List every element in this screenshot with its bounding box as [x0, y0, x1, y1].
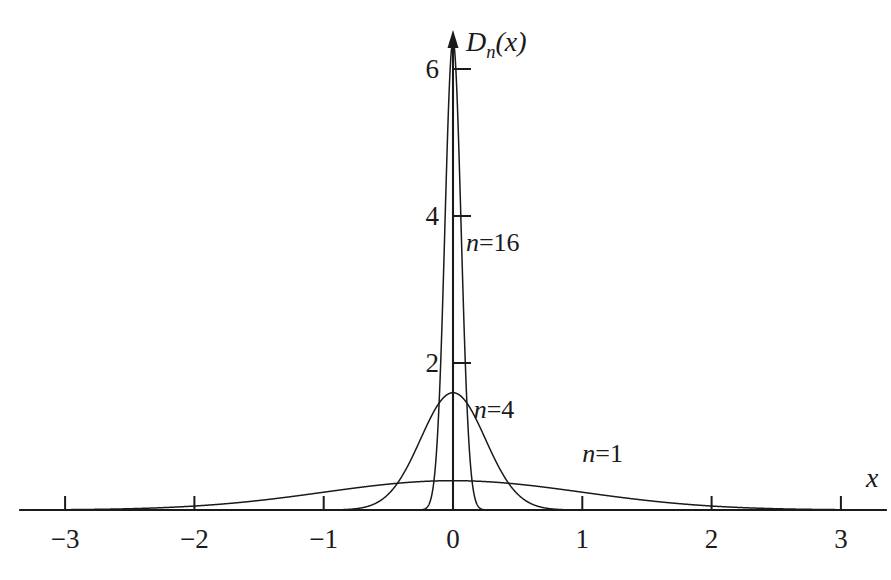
y-axis-title-symbol: D [466, 26, 486, 57]
x-tick-label-0: 0 [446, 524, 460, 555]
axes-group [38, 40, 862, 510]
x-tick-label--2: −2 [180, 524, 209, 555]
curve-label-variable: n [474, 395, 487, 424]
y-axis-title-argument: (x) [495, 26, 526, 57]
curve-label-value: =4 [487, 395, 515, 424]
x-tick-label--1: −1 [309, 524, 338, 555]
curve-label-n-1: n=1 [582, 439, 623, 469]
x-axis-title: x [866, 462, 878, 494]
figure-canvas: x Dn(x) −3−2−10123 246 n=1n=4n=16 [0, 0, 891, 580]
y-tick-label-2: 2 [405, 348, 439, 379]
x-tick-label-1: 1 [576, 524, 590, 555]
x-tick-label--3: −3 [51, 524, 80, 555]
y-axis-title: Dn(x) [466, 26, 527, 63]
y-tick-label-4: 4 [405, 201, 439, 232]
y-axis-arrowhead [448, 30, 459, 48]
y-tick-label-6: 6 [405, 54, 439, 85]
curve-label-variable: n [582, 439, 595, 468]
curve-label-n-4: n=4 [474, 395, 515, 425]
x-tick-label-3: 3 [834, 524, 848, 555]
curve-label-value: =1 [595, 439, 623, 468]
chart-plot-area [0, 0, 891, 580]
y-tick-marks [454, 69, 471, 363]
curve-label-n-16: n=16 [466, 228, 520, 258]
x-tick-label-2: 2 [705, 524, 719, 555]
curve-label-value: =16 [479, 228, 520, 257]
curve-label-variable: n [466, 228, 479, 257]
